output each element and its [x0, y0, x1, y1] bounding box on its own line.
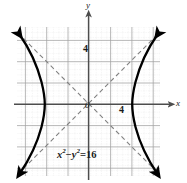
hyperbola-figure: y x 4 4 0 x2−y2=16 — [0, 0, 187, 183]
x-axis-label: x — [176, 99, 180, 108]
origin-label: 0 — [85, 101, 90, 110]
y-axis-label: y — [86, 1, 90, 10]
equation-value: 16 — [86, 149, 97, 160]
y-tick-label-4: 4 — [83, 44, 88, 54]
equation-label: x2−y2=16 — [57, 148, 96, 160]
x-tick-label-4: 4 — [119, 105, 124, 115]
